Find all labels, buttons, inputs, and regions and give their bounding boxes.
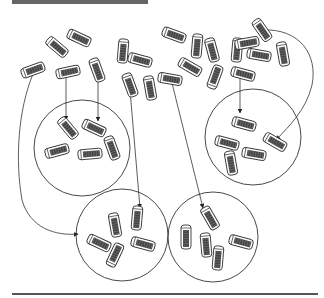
population-capsule-icon (177, 57, 203, 78)
population-capsule-icon (191, 34, 203, 59)
sample-1-capsule-icon (103, 135, 121, 161)
sample-2-capsule-icon (262, 132, 288, 153)
sample-3-capsule-icon (108, 212, 122, 237)
arrow-to-sample-2-b (262, 30, 313, 140)
arrow-to-sample-4 (172, 83, 203, 208)
diagram-stage (0, 0, 324, 298)
population-capsule-icon (204, 37, 220, 63)
sample-2-capsule-icon (231, 116, 257, 132)
population-capsule-icon (20, 61, 46, 79)
population-capsule-icon (246, 48, 271, 62)
bottom-rule (12, 293, 318, 295)
sample-4-capsule-icon (228, 234, 254, 250)
sample-2-capsule-icon (241, 147, 266, 161)
population-capsule-icon (127, 52, 153, 68)
population-capsule-icon (88, 57, 106, 83)
sample-circles (34, 89, 301, 282)
sample-3-capsule-icon (131, 206, 143, 231)
population-capsule-icon (230, 66, 256, 82)
sample-2-capsule-icon (214, 135, 240, 151)
population-capsule-icon (157, 72, 182, 86)
sample-4-capsule-icon (181, 225, 191, 249)
population-capsule-icon (117, 39, 129, 64)
population-capsule-icon (276, 41, 290, 66)
sampling-diagram (0, 0, 324, 298)
sample-2-capsule-icon (224, 150, 238, 175)
sample-4-capsule-icon (212, 246, 224, 271)
sample-3-capsule-icon (86, 233, 112, 252)
sample-1-capsule-icon (56, 116, 79, 141)
population-capsule-icon (143, 75, 157, 100)
sample-3-capsule-icon (130, 236, 156, 252)
population-capsule-icon (55, 65, 81, 80)
capsule-population (20, 17, 290, 270)
population-capsule-icon (206, 64, 224, 90)
population-capsule-icon (45, 35, 70, 58)
population-capsule-icon (161, 26, 187, 44)
sample-1-capsule-icon (81, 118, 107, 137)
sample-1-capsule-icon (78, 148, 103, 160)
population-capsule-icon (121, 72, 139, 98)
sample-4-capsule-icon (200, 205, 221, 231)
sample-4-capsule-icon (200, 233, 212, 258)
population-capsule-icon (66, 28, 92, 47)
sample-1-capsule-icon (44, 143, 70, 159)
